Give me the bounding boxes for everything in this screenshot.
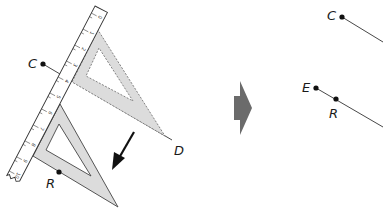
point-c-right [339,14,344,19]
label-e: E [302,80,311,95]
line-cd-right [342,17,383,42]
point-e [313,85,318,90]
point-r-left [56,169,61,174]
label-r-left: R [46,176,55,191]
label-r-right: R [329,106,338,121]
label-c-left: C [28,56,38,71]
point-r-right [333,96,338,101]
diagram-canvas: 0 1 2 3 4 5 6 7 8 9 10 C D R C E R [0,0,383,210]
label-d: D [174,143,184,158]
slide-arrow-icon [112,132,134,170]
transition-arrow-icon [234,81,252,135]
label-c-right: C [327,8,337,23]
line-er [316,88,383,127]
point-c-left [40,61,45,66]
